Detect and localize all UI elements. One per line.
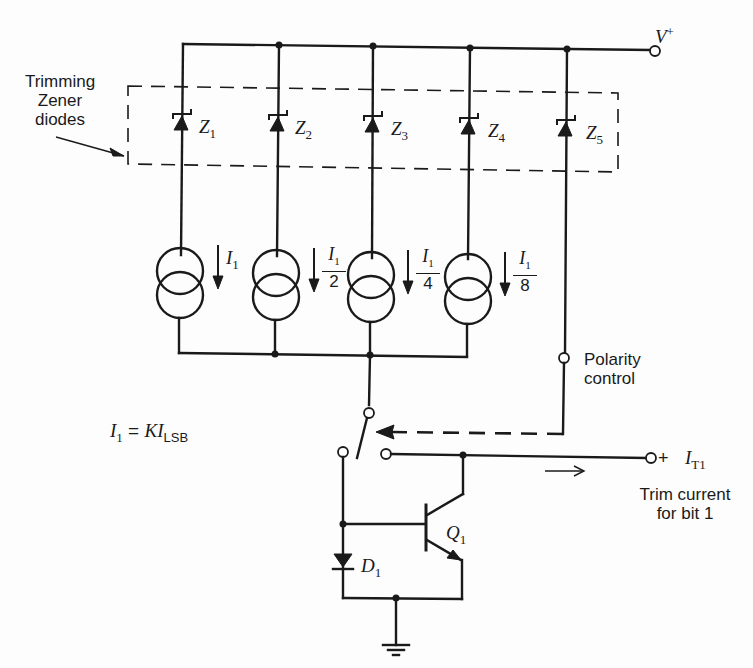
current-label-1: I1 [226,248,239,275]
current-equation: I1 = KILSB [110,421,188,448]
current-source-3 [348,250,413,355]
output-current-label: IT1 [685,448,706,475]
supply-rail [183,42,660,57]
summing-bus [179,351,467,406]
output-caption: Trim current for bit 1 [620,485,750,523]
zener-z1 [173,44,191,255]
zener-z5 [557,49,575,354]
zener-label-z2: Z2 [295,118,312,145]
polarity-control-line [376,353,569,439]
current-source-2 [253,248,319,354]
current-label-3: I1 4 [416,247,440,293]
current-label-2: I1 2 [322,245,346,291]
supply-terminal [650,46,660,56]
output-polarity-sign: + [658,449,669,468]
zener-label-z4: Z4 [488,121,505,148]
zener-z3 [364,46,382,258]
zener-group-box [56,86,618,172]
diode-d1 [333,457,353,598]
zener-z4 [460,48,478,259]
zener-label-z3: Z3 [391,119,408,146]
ground [343,595,462,656]
zener-label-z1: Z1 [199,117,216,144]
transistor-label: Q1 [446,523,466,550]
circuit-diagram: Trimming Zener diodes V+ Z1 Z2 Z3 Z4 Z5 … [0,0,753,668]
zener-group-label: Trimming Zener diodes [10,72,110,129]
current-source-1 [157,245,223,353]
zener-label-z5: Z5 [586,123,603,150]
current-source-4 [445,252,510,356]
supply-label: V+ [655,22,674,47]
polarity-control-label: Polarity control [584,350,641,388]
output-line [391,452,656,477]
zener-z2 [269,45,287,256]
diode-label: D1 [361,556,381,583]
current-label-4: I1 8 [513,249,537,295]
